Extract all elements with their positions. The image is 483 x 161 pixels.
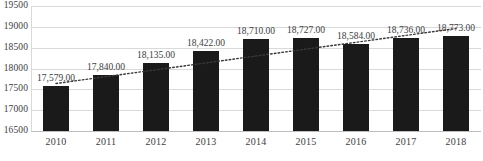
x-axis-tick-label: 2010 (46, 137, 67, 147)
bar-value-label: 17,579.00 (37, 74, 75, 84)
bar-group: 18,422.00 (181, 6, 231, 131)
bar[interactable] (443, 36, 469, 131)
y-axis-tick-label: 16500 (4, 126, 28, 136)
bar-group: 18,584.00 (331, 6, 381, 131)
bar-value-label: 17,840.00 (87, 63, 125, 73)
bar-group: 18,727.00 (281, 6, 331, 131)
bar-value-label: 18,773.00 (437, 24, 475, 34)
x-axis-tick-label: 2012 (146, 137, 167, 147)
bar[interactable] (293, 38, 319, 131)
bar-value-label: 18,736.00 (387, 26, 425, 36)
bar[interactable] (393, 38, 419, 131)
bar-series: 17,579.0017,840.0018,135.0018,422.0018,7… (31, 6, 481, 131)
plot-area: 17,579.0017,840.0018,135.0018,422.0018,7… (31, 6, 481, 131)
y-axis-tick-label: 18500 (4, 43, 28, 53)
bar-group: 18,773.00 (431, 6, 481, 131)
x-axis-tick-label: 2011 (96, 137, 116, 147)
bar-value-label: 18,584.00 (337, 32, 375, 42)
x-axis-tick-label: 2017 (396, 137, 417, 147)
bar[interactable] (243, 39, 269, 131)
x-axis-tick-label: 2013 (196, 137, 217, 147)
bar-value-label: 18,422.00 (187, 39, 225, 49)
y-axis: 16500170001750018000185001900019500 (0, 0, 30, 161)
bar-value-label: 18,135.00 (137, 51, 175, 61)
x-axis-tick-label: 2014 (246, 137, 267, 147)
x-axis-tick-label: 2018 (446, 137, 467, 147)
y-axis-tick-label: 17500 (4, 85, 28, 95)
bar-group: 17,579.00 (31, 6, 81, 131)
bar[interactable] (43, 86, 69, 131)
y-axis-tick-label: 19500 (4, 1, 28, 11)
bar-value-label: 18,710.00 (237, 27, 275, 37)
bar-group: 18,135.00 (131, 6, 181, 131)
bar[interactable] (193, 51, 219, 131)
x-axis: 201020112012201320142015201620172018 (31, 133, 481, 155)
x-axis-tick-label: 2015 (296, 137, 317, 147)
bar-group: 18,710.00 (231, 6, 281, 131)
bar[interactable] (143, 63, 169, 131)
y-axis-tick-label: 19000 (4, 22, 28, 32)
y-axis-tick-label: 17000 (4, 105, 28, 115)
bar[interactable] (343, 44, 369, 131)
y-axis-tick-label: 18000 (4, 64, 28, 74)
bar-value-label: 18,727.00 (287, 26, 325, 36)
bar-group: 17,840.00 (81, 6, 131, 131)
x-axis-tick-label: 2016 (346, 137, 367, 147)
bar[interactable] (93, 75, 119, 131)
axis-baseline (31, 131, 481, 132)
bar-chart: 16500170001750018000185001900019500 17,5… (0, 0, 483, 161)
bar-group: 18,736.00 (381, 6, 431, 131)
